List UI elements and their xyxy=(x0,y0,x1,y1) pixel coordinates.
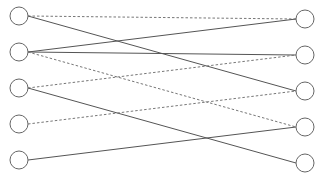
node-r2 xyxy=(296,46,314,64)
edge-l2-r4 xyxy=(28,52,296,127)
edge-l5-r4 xyxy=(28,127,296,160)
bipartite-graph xyxy=(0,0,321,178)
node-l3 xyxy=(10,79,28,97)
node-l1 xyxy=(10,7,28,25)
node-l2 xyxy=(10,43,28,61)
node-r1 xyxy=(296,10,314,28)
edges-layer xyxy=(28,16,296,163)
edge-l3-r5 xyxy=(28,88,296,163)
nodes-layer xyxy=(10,7,314,172)
edge-l3-r2 xyxy=(28,55,296,88)
node-l5 xyxy=(10,151,28,169)
edge-l4-r3 xyxy=(28,91,296,124)
node-r5 xyxy=(296,154,314,172)
node-r3 xyxy=(296,82,314,100)
node-r4 xyxy=(296,118,314,136)
edge-l2-r2 xyxy=(28,52,296,55)
edge-l1-r1 xyxy=(28,16,296,19)
node-l4 xyxy=(10,115,28,133)
edge-l2-r1 xyxy=(28,19,296,52)
